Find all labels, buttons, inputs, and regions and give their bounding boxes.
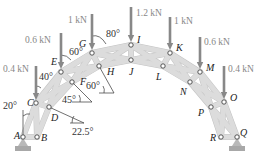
joint-label-H: H	[106, 66, 115, 77]
angle-label: 20°	[3, 100, 17, 111]
joint-D	[47, 105, 51, 109]
angle-label: 80°	[106, 28, 120, 39]
joint-label-A: A	[13, 130, 21, 141]
joint-label-R: R	[209, 132, 216, 143]
joint-label-D: D	[50, 112, 59, 123]
joint-P	[209, 105, 213, 109]
load-label-E: 0.6 kN	[25, 35, 51, 45]
load-arrow-C: 0.4 kN	[3, 64, 39, 100]
angle-label: 22.5°	[72, 126, 94, 137]
joint-N	[188, 80, 192, 84]
joint-L	[161, 64, 165, 68]
joint-E	[59, 70, 63, 74]
joint-label-E: E	[50, 56, 57, 67]
load-label-K: 1 kN	[174, 16, 193, 26]
joint-label-O: O	[230, 92, 237, 103]
angle-label: 60°	[69, 46, 83, 57]
joint-label-P: P	[197, 107, 204, 118]
joint-A	[21, 135, 25, 139]
angle-label: 40°	[39, 71, 53, 82]
joint-Q	[235, 135, 239, 139]
joint-label-B: B	[41, 132, 47, 143]
joint-label-M: M	[205, 62, 215, 73]
load-arrow-E: 0.6 kN	[25, 33, 64, 69]
joint-label-C: C	[27, 97, 34, 108]
load-label-I: 1.2 kN	[136, 8, 162, 18]
joint-label-J: J	[129, 66, 134, 77]
load-label-G: 1 kN	[68, 15, 87, 25]
load-label-C: 0.4 kN	[3, 64, 29, 74]
joint-I	[129, 43, 133, 47]
joint-K	[168, 51, 172, 55]
load-arrow-I: 1.2 kN	[128, 7, 162, 42]
joint-R	[219, 135, 223, 139]
joint-C	[34, 101, 38, 105]
joint-label-I: I	[136, 34, 141, 45]
angle-label: 45°	[62, 94, 76, 105]
joint-B	[35, 135, 39, 139]
arched-truss-diagram: ABCDEFGHIJKLMNOPRQ 0.4 kN0.6 kN1 kN1.2 k…	[0, 0, 262, 158]
joint-label-K: K	[175, 42, 184, 53]
joint-F	[70, 80, 74, 84]
load-label-M: 0.6 kN	[204, 37, 230, 47]
joint-J	[129, 58, 133, 62]
joint-label-Q: Q	[240, 127, 248, 138]
load-arrow-O: 0.4 kN	[221, 64, 254, 99]
joint-G	[90, 51, 94, 55]
joint-O	[222, 100, 226, 104]
joint-H	[97, 64, 101, 68]
joint-M	[198, 70, 202, 74]
load-label-O: 0.4 kN	[228, 64, 254, 74]
joint-label-N: N	[179, 86, 188, 97]
joint-label-L: L	[155, 71, 162, 82]
angle-label: 60°	[86, 80, 100, 91]
